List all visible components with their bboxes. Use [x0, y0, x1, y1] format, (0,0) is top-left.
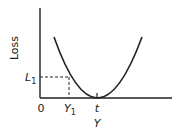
- x-axis-label: Y: [94, 117, 102, 130]
- y1-label: Y1: [64, 102, 76, 117]
- loss-curve: [54, 37, 142, 98]
- target-label: t: [95, 102, 100, 115]
- origin-label: 0: [38, 102, 45, 115]
- l1-label: L1: [25, 71, 36, 86]
- loss-function-diagram: Loss L1 0 Y1 t Y: [0, 0, 181, 134]
- y-axis-label: Loss: [8, 36, 21, 60]
